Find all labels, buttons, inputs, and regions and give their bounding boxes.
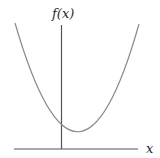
y-axis-label: f(x): [51, 6, 74, 21]
function-graph: f(x) x: [0, 0, 160, 158]
x-axis-label: x: [146, 141, 154, 156]
parabola-curve: [15, 23, 139, 132]
